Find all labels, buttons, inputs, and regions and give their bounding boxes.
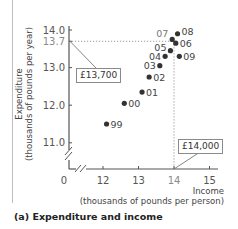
- y-tick-label: 13.7: [43, 36, 65, 47]
- data-point-label: 02: [153, 72, 165, 83]
- y-tick-label: 14.0: [43, 25, 65, 36]
- y-axis-units: (thousands of pounds per year): [24, 27, 34, 161]
- x-tick-label: 15: [203, 175, 216, 186]
- chart-caption: (a) Expenditure and income: [14, 211, 163, 222]
- data-point-99: [104, 121, 109, 126]
- x-axis-title: Income: [80, 186, 224, 196]
- data-point-00: [122, 101, 127, 106]
- data-point-02: [147, 74, 152, 79]
- data-point-04: [163, 54, 168, 59]
- data-point-05: [168, 48, 173, 53]
- data-point-08: [175, 31, 180, 36]
- data-point-label: 06: [180, 38, 192, 49]
- x-tick-label: 14: [168, 175, 181, 186]
- x-tick-label: 0: [61, 175, 67, 186]
- x-tick-label: 13: [132, 175, 145, 186]
- x-axis-label: Income (thousands of pounds per person): [80, 186, 224, 206]
- data-point-07: [170, 37, 175, 42]
- x-axis-units: (thousands of pounds per person): [80, 196, 224, 206]
- data-point-label: 08: [182, 26, 194, 37]
- data-point-label: 09: [183, 51, 195, 62]
- data-point-label: 01: [146, 87, 158, 98]
- data-point-label: 00: [128, 98, 140, 109]
- callout-13700: £13,700: [76, 68, 121, 83]
- y-tick-label: 11.0: [43, 137, 65, 148]
- data-point-03: [157, 63, 162, 68]
- y-tick-label: 13.0: [43, 62, 65, 73]
- x-tick-label: 12: [97, 175, 110, 186]
- callout-14000: £14,000: [178, 139, 223, 154]
- y-axis-title: Expenditure: [14, 27, 24, 161]
- data-point-label: 99: [111, 119, 123, 130]
- data-point-label: 07: [156, 28, 168, 39]
- y-tick-label: 12.0: [43, 100, 65, 111]
- data-point-09: [177, 54, 182, 59]
- chart-figure: 11.012.013.013.714.001213141599000102030…: [0, 0, 238, 229]
- data-point-label: 05: [154, 42, 166, 53]
- callout-leader-x: [174, 152, 200, 169]
- data-point-label: 03: [144, 60, 156, 71]
- callout-leader-y: [70, 41, 96, 68]
- data-point-01: [139, 89, 144, 94]
